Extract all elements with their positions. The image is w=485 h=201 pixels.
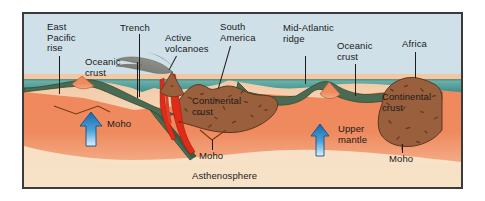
screenshot-root: East Pacific rise Oceanic crust Trench A…	[0, 0, 485, 201]
label-oceanic-crust-right: Oceanic crust	[337, 41, 373, 62]
label-moho-center: Moho	[199, 151, 223, 162]
label-continental-crust-south-america: Continental crust	[192, 96, 241, 117]
leader-moho-right	[402, 144, 403, 153]
leader-east-pacific-rise	[59, 56, 60, 94]
label-moho-left: Moho	[107, 119, 131, 130]
label-asthenosphere: Asthenosphere	[192, 171, 257, 182]
label-east-pacific-rise: East Pacific rise	[47, 22, 76, 54]
label-africa: Africa	[402, 39, 427, 50]
leader-oceanic-crust-left	[137, 62, 138, 98]
leader-trench	[139, 34, 140, 97]
label-active-volcanoes: Active volcanoes	[165, 33, 209, 54]
leader-mid-atlantic-ridge	[305, 56, 306, 84]
label-upper-mantle: Upper mantle	[338, 124, 367, 145]
label-south-america: South America	[220, 22, 256, 43]
cross-section-figure: East Pacific rise Oceanic crust Trench A…	[22, 12, 463, 189]
label-mid-atlantic-ridge: Mid-Atlantic ridge	[283, 23, 334, 44]
label-oceanic-crust-left: Oceanic crust	[85, 57, 121, 78]
leader-moho-center	[212, 140, 213, 150]
label-trench: Trench	[120, 23, 150, 34]
label-moho-right: Moho	[389, 154, 413, 165]
leader-africa	[415, 52, 416, 78]
leader-oceanic-crust-right	[355, 64, 356, 96]
label-continental-crust-africa: Continental crust	[382, 92, 431, 113]
